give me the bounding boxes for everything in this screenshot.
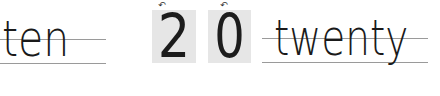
digit-2: 2 bbox=[155, 6, 192, 66]
word-ten: ten bbox=[2, 14, 69, 64]
digit-box-0: 0 bbox=[208, 10, 251, 63]
stroke-arrow-icon: ↶ bbox=[220, 0, 228, 10]
digit-0: 0 bbox=[212, 6, 246, 66]
digit-box-2: 2 bbox=[152, 10, 196, 63]
stroke-arrow-icon: ↶ bbox=[158, 0, 166, 10]
word-twenty: twenty bbox=[274, 13, 408, 63]
